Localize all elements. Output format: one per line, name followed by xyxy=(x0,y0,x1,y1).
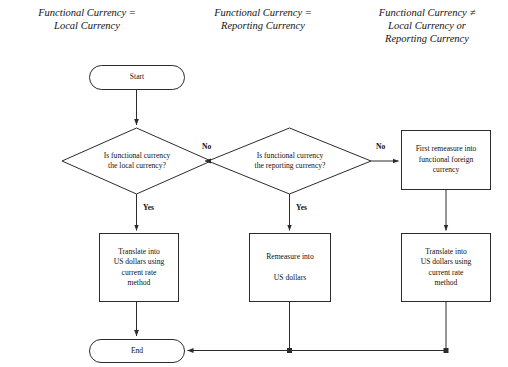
flowchart-page: Functional Currency = Local Currency Fun… xyxy=(0,0,508,367)
edge-label-yes-local: Yes xyxy=(143,203,154,212)
decision-reporting-currency[interactable]: Is functional currency the reporting cur… xyxy=(226,145,354,177)
process-first-remeasure[interactable]: First remeasure into functional foreign … xyxy=(402,131,490,189)
decision-local-currency[interactable]: Is functional currency the local currenc… xyxy=(74,145,200,177)
end-node[interactable]: End xyxy=(89,339,185,363)
process-remeasure-middle[interactable]: Remeasure into US dollars xyxy=(250,234,330,301)
edge-label-yes-reporting: Yes xyxy=(296,203,307,212)
edge-label-no-local: No xyxy=(202,142,211,151)
process-translate-left[interactable]: Translate into US dollars using current … xyxy=(100,234,178,301)
start-node[interactable]: Start xyxy=(89,65,185,90)
edge-label-no-reporting: No xyxy=(376,142,385,151)
process-translate-right[interactable]: Translate into US dollars using current … xyxy=(402,234,490,301)
